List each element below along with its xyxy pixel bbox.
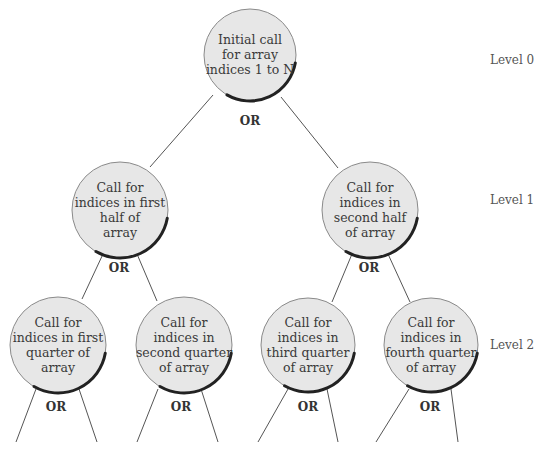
node-label-line: second half	[334, 210, 408, 225]
recursion-tree-diagram: Initial callfor arrayindices 1 to NORCal…	[0, 0, 541, 461]
tree-edges	[16, 95, 458, 442]
or-label: OR	[298, 400, 319, 414]
node-label-line: indices in first	[13, 330, 104, 345]
level-label-1: Level 1	[490, 193, 534, 207]
node-first-half: Call forindices in firsthalf ofarrayOR	[72, 162, 168, 275]
node-label-line: fourth quarter	[385, 345, 476, 360]
tree-edge	[137, 254, 157, 301]
node-first-quarter: Call forindices in firstquarter ofarrayO…	[10, 297, 106, 414]
or-label: OR	[420, 400, 441, 414]
node-label-line: indices in	[340, 195, 401, 210]
tree-edge	[137, 389, 158, 442]
node-third-quarter: Call forindices inthird quarterof arrayO…	[261, 298, 355, 414]
level-label-0: Level 0	[490, 53, 534, 67]
node-label-line: second quarter	[136, 345, 232, 360]
or-label: OR	[171, 400, 192, 414]
node-label-line: Initial call	[218, 32, 282, 47]
tree-edge	[258, 389, 288, 442]
tree-edge	[327, 389, 338, 442]
level-label-2: Level 2	[490, 338, 534, 352]
or-label: OR	[46, 400, 67, 414]
node-label-line: Call for	[284, 315, 331, 330]
node-label-line: indices in	[154, 330, 215, 345]
node-label-line: of array	[406, 360, 457, 375]
tree-edge	[388, 254, 410, 302]
node-label-line: indices 1 to N	[206, 62, 294, 77]
node-label-line: Call for	[34, 315, 81, 330]
node-label-line: third quarter	[267, 345, 350, 360]
node-label-line: array	[41, 360, 76, 375]
level-labels: Level 0Level 1Level 2	[490, 53, 534, 352]
node-label-line: of array	[345, 225, 396, 240]
node-label-line: indices in	[278, 330, 339, 345]
tree-edge	[451, 389, 458, 442]
node-label-line: array	[103, 225, 138, 240]
node-label-line: of array	[159, 360, 210, 375]
or-label: OR	[109, 261, 130, 275]
tree-nodes: Initial callfor arrayindices 1 to NORCal…	[10, 9, 478, 414]
tree-edge	[332, 254, 352, 302]
node-label-line: Call for	[346, 180, 393, 195]
node-root: Initial callfor arrayindices 1 to NOR	[204, 9, 296, 128]
node-fourth-quarter: Call forindices infourth quarterof array…	[384, 298, 478, 414]
tree-edge	[376, 389, 409, 442]
node-label-line: Call for	[407, 315, 454, 330]
node-second-half: Call forindices insecond halfof arrayOR	[322, 162, 418, 275]
tree-edge	[201, 389, 218, 442]
tree-edge	[16, 389, 36, 442]
or-label: OR	[359, 261, 380, 275]
node-label-line: Call for	[160, 315, 207, 330]
node-label-line: for array	[222, 47, 279, 62]
node-label-line: quarter of	[26, 345, 91, 360]
tree-edge	[79, 389, 97, 442]
node-label-line: indices in	[401, 330, 462, 345]
node-label-line: indices in first	[75, 195, 166, 210]
node-second-quarter: Call forindices insecond quarterof array…	[136, 297, 232, 414]
node-label-line: half of	[100, 210, 142, 225]
node-label-line: Call for	[96, 180, 143, 195]
tree-edge	[150, 95, 213, 167]
tree-edge	[82, 254, 103, 299]
or-label: OR	[240, 114, 261, 128]
node-label-line: of array	[283, 360, 334, 375]
tree-edge	[281, 97, 338, 168]
